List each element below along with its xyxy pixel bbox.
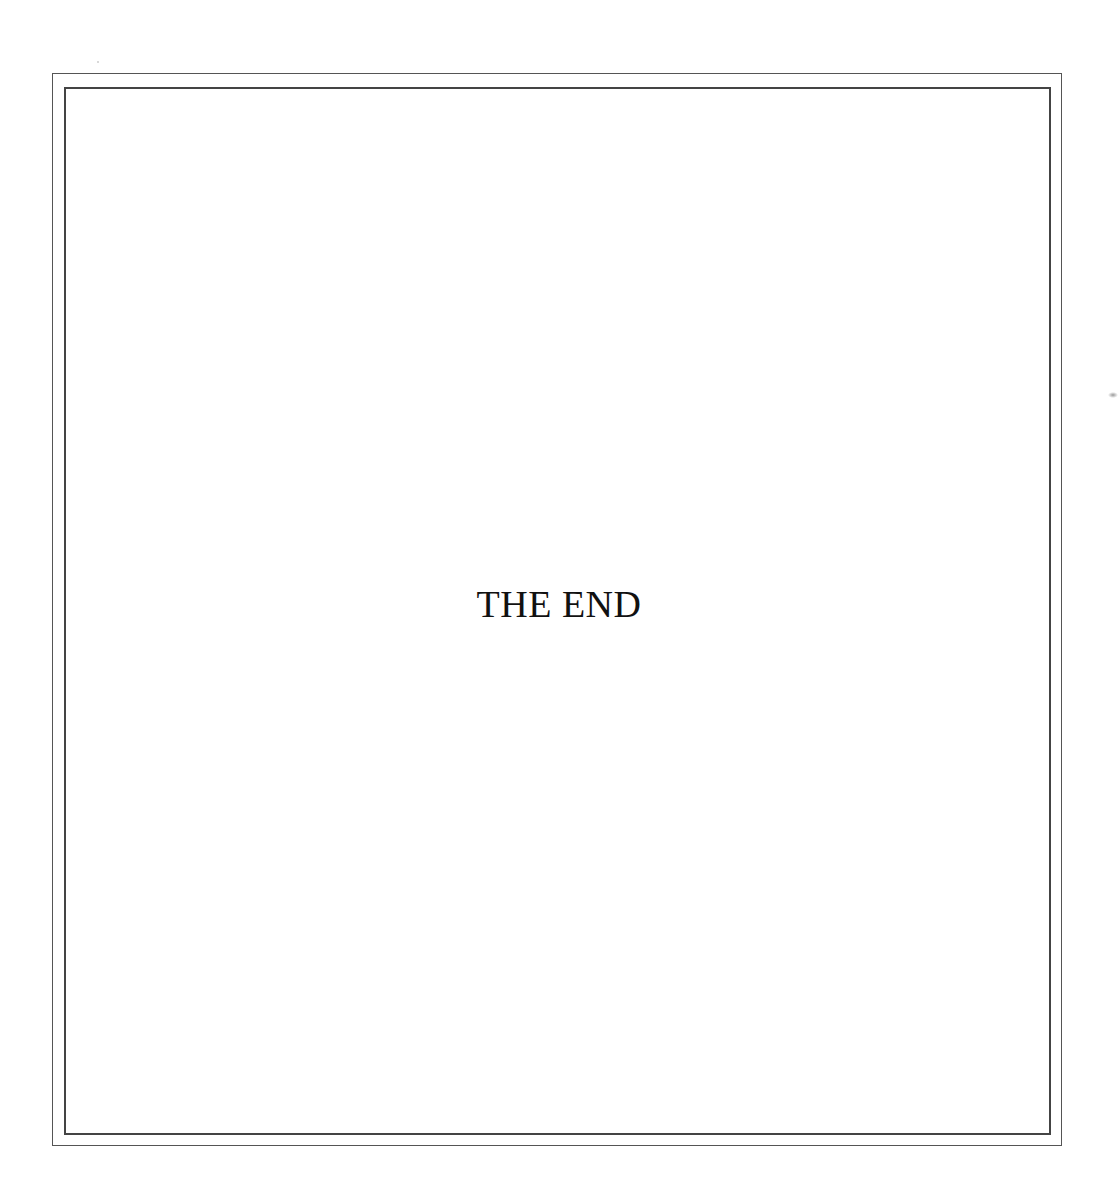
scan-artifact-dot [97,61,99,63]
the-end-text: THE END [0,582,1118,626]
scan-artifact-mark [1108,392,1118,398]
